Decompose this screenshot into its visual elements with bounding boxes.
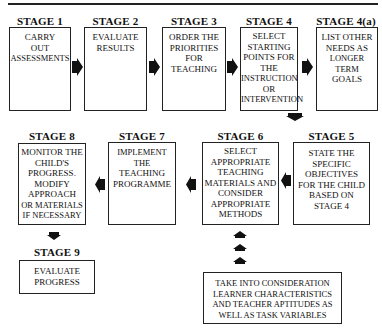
stage-8-box: MONITOR THE CHILD'S PROGRESS. MODIFY APP…	[18, 143, 86, 225]
stage-4a-line: LIST OTHER	[317, 32, 377, 43]
stage-1-box: CARRY OUT ASSESSMENTS	[9, 27, 71, 111]
stage-3-line: TEACHING	[163, 64, 225, 75]
arrow-right-icon	[227, 58, 238, 76]
arrow-left-icon	[95, 176, 105, 193]
stage-4-box: SELECT STARTING POINTS FOR THE INSTRUCTI…	[240, 27, 298, 111]
stage-8-line: CHILD'S	[19, 158, 85, 169]
stage-1-heading: STAGE 1	[9, 15, 71, 27]
arrow-down-icon	[47, 232, 61, 240]
stage-6-heading: STAGE 6	[202, 130, 279, 142]
stage-9-heading: STAGE 9	[19, 246, 95, 258]
stage-9-line: PROGRESS	[20, 277, 94, 288]
stage-7-line: TEACHING	[109, 168, 175, 179]
stage-6-line: APPROPRIATE	[203, 157, 278, 168]
stage-2-line: RESULTS	[85, 43, 146, 54]
stage-6-line: SELECT	[203, 146, 278, 157]
stage-8-line: APPROACH	[19, 189, 85, 200]
stage-4-line: INTERVENTION	[241, 94, 297, 105]
stage-8-line: OR MATERIALS	[19, 200, 85, 211]
arrow-right-icon	[149, 58, 160, 76]
considerations-line: TAKE INTO CONSIDERATION	[204, 278, 341, 289]
considerations-line: LEARNER CHARACTERISTICS	[204, 289, 341, 300]
stage-2-heading: STAGE 2	[84, 15, 147, 27]
stage-4a-line: LONGER TERM	[317, 53, 377, 74]
arrow-left-icon	[281, 172, 291, 189]
stage-4a-heading: STAGE 4(a)	[314, 15, 378, 27]
stage-3-line: PRIORITIES	[163, 43, 225, 54]
arrow-left-icon	[186, 176, 196, 193]
stage-4-heading: STAGE 4	[240, 15, 298, 27]
stage-1-line: OUT	[10, 43, 70, 54]
stage-2-box: EVALUATE RESULTS	[84, 27, 147, 111]
stage-3-line: FOR	[163, 53, 225, 64]
stage-4a-line: NEEDS AS	[317, 43, 377, 54]
stage-7-line: IMPLEMENT THE	[109, 147, 175, 168]
stage-4-line: INSTRUCTION	[241, 73, 297, 84]
stage-4-line: THE	[241, 63, 297, 74]
stage-1-line: ASSESSMENTS	[10, 53, 70, 64]
stage-5-line: STAGE 4	[294, 201, 369, 212]
stage-3-line: ORDER THE	[163, 32, 225, 43]
considerations-line: WELL AS TASK VARIABLES	[204, 310, 341, 321]
arrow-up-icon	[233, 257, 247, 264]
stage-8-line: PROGRESS.	[19, 168, 85, 179]
stage-4-line: OR	[241, 84, 297, 95]
stage-5-line: OBJECTIVES	[294, 169, 369, 180]
stage-6-box: SELECT APPROPRIATE TEACHING MATERIALS AN…	[202, 142, 279, 225]
top-rule	[8, 3, 378, 5]
stage-6-line: MATERIALS AND	[203, 178, 278, 189]
stage-1-line: CARRY	[10, 32, 70, 43]
stage-4-line: SELECT	[241, 31, 297, 42]
arrow-up-icon	[233, 244, 247, 251]
stage-9-box: EVALUATE PROGRESS	[19, 260, 95, 294]
stage-4a-box: LIST OTHER NEEDS AS LONGER TERM GOALS	[316, 27, 378, 111]
arrow-down-icon	[286, 113, 304, 121]
considerations-box: TAKE INTO CONSIDERATION LEARNER CHARACTE…	[203, 272, 342, 324]
considerations-line: AND TEACHER APTITUDES AS	[204, 299, 341, 310]
arrow-right-icon	[302, 58, 313, 76]
stage-5-heading: STAGE 5	[293, 130, 370, 142]
stage-6-line: CONSIDER	[203, 188, 278, 199]
stage-2-line: EVALUATE	[85, 32, 146, 43]
stage-4a-line: GOALS	[317, 74, 377, 85]
stage-7-heading: STAGE 7	[108, 130, 176, 142]
stage-8-heading: STAGE 8	[18, 130, 86, 142]
stage-6-line: METHODS	[203, 209, 278, 220]
stage-5-box: STATE THE SPECIFIC OBJECTIVES FOR THE CH…	[293, 142, 370, 225]
stage-3-heading: STAGE 3	[162, 15, 226, 27]
stage-8-line: MODIFY	[19, 179, 85, 190]
stage-7-box: IMPLEMENT THE TEACHING PROGRAMME	[108, 142, 176, 225]
stage-6-line: APPROPRIATE	[203, 199, 278, 210]
stage-8-line: MONITOR THE	[19, 147, 85, 158]
stage-9-line: EVALUATE	[20, 266, 94, 277]
stage-3-box: ORDER THE PRIORITIES FOR TEACHING	[162, 27, 226, 111]
stage-7-line: PROGRAMME	[109, 179, 175, 190]
stage-5-line: SPECIFIC	[294, 159, 369, 170]
stage-4-line: POINTS FOR	[241, 52, 297, 63]
stage-6-line: TEACHING	[203, 167, 278, 178]
arrow-right-icon	[72, 58, 83, 76]
stage-4-line: STARTING	[241, 42, 297, 53]
stage-5-line: STATE THE	[294, 148, 369, 159]
stage-8-line: IF NECESSARY	[19, 210, 85, 221]
stage-5-line: BASED ON	[294, 190, 369, 201]
arrow-up-icon	[233, 231, 247, 238]
stage-5-line: FOR THE CHILD	[294, 180, 369, 191]
